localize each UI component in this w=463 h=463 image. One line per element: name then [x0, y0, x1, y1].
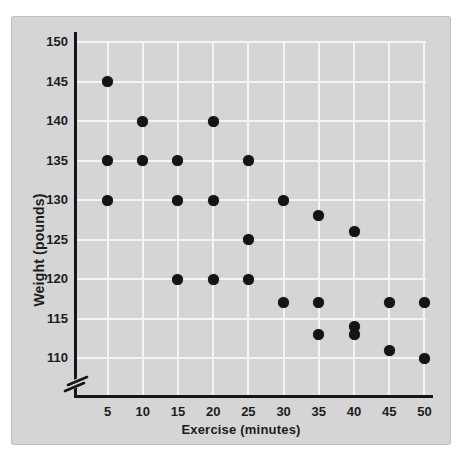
gridline-vertical	[423, 41, 425, 398]
data-point	[102, 195, 113, 206]
data-point	[419, 353, 430, 364]
data-point	[172, 274, 183, 285]
data-point	[384, 297, 395, 308]
x-tick-label: 30	[267, 404, 301, 419]
gridline-vertical	[353, 41, 355, 398]
gridline-vertical	[283, 41, 285, 398]
x-tick-label: 15	[161, 404, 195, 419]
x-axis-title: Exercise (minutes)	[181, 422, 300, 437]
gridline-vertical	[142, 41, 144, 398]
axis-break-icon	[63, 373, 89, 395]
y-tick-label: 150	[36, 34, 68, 50]
figure: 5101520253035404550150145140135130125120…	[0, 0, 463, 463]
data-point	[208, 195, 219, 206]
gridline-vertical	[177, 41, 179, 398]
data-point	[208, 274, 219, 285]
y-tick-label: 110	[36, 350, 68, 366]
data-point	[349, 329, 360, 340]
x-tick-label: 40	[337, 404, 371, 419]
gridline-horizontal	[77, 81, 426, 83]
data-point	[243, 155, 254, 166]
gridline-vertical	[107, 41, 109, 398]
x-tick-label: 50	[407, 404, 441, 419]
gridline-horizontal	[77, 120, 426, 122]
gridline-vertical	[212, 41, 214, 398]
x-tick-label: 10	[126, 404, 160, 419]
y-tick-label: 140	[36, 113, 68, 129]
gridline-horizontal	[77, 318, 426, 320]
data-point	[243, 274, 254, 285]
y-axis-title: Weight (pounds)	[31, 193, 47, 306]
y-tick-label: 115	[36, 311, 68, 327]
data-point	[243, 234, 254, 245]
data-point	[102, 76, 113, 87]
data-point	[208, 116, 219, 127]
x-tick-label: 25	[231, 404, 265, 419]
x-tick-label: 20	[196, 404, 230, 419]
y-tick-label: 135	[36, 153, 68, 169]
y-tick-label: 145	[36, 74, 68, 90]
data-point	[384, 345, 395, 356]
data-point	[172, 195, 183, 206]
gridline-horizontal	[77, 41, 426, 43]
data-point	[102, 155, 113, 166]
data-point	[278, 195, 289, 206]
x-tick-label: 35	[302, 404, 336, 419]
x-axis-line	[74, 395, 433, 398]
data-point	[137, 116, 148, 127]
x-tick-label: 5	[91, 404, 125, 419]
gridline-horizontal	[77, 199, 426, 201]
gridline-vertical	[247, 41, 249, 398]
data-point	[349, 226, 360, 237]
gridline-horizontal	[77, 357, 426, 359]
x-tick-label: 45	[372, 404, 406, 419]
y-axis-line	[74, 32, 77, 398]
